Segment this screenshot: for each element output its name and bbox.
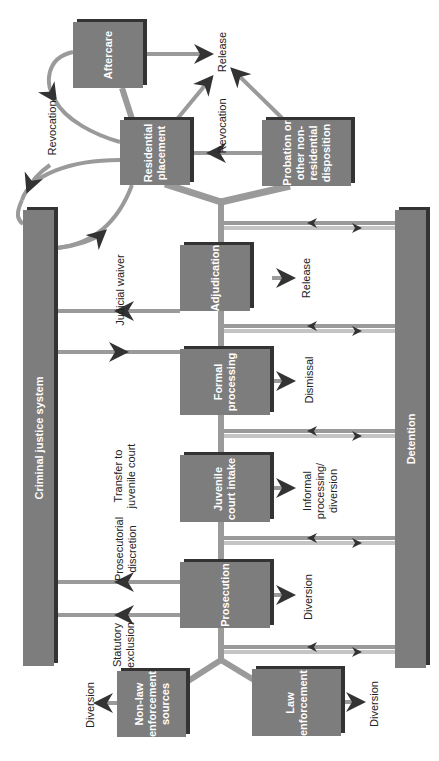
node-aftercare: Aftercare bbox=[73, 22, 143, 88]
label-diversion-non-law: Diversion bbox=[84, 682, 97, 728]
node-non-law-enforcement: Non-law enforcement sources bbox=[117, 671, 186, 737]
node-label: Probation or other non- residential disp… bbox=[281, 120, 333, 185]
label-diversion-law: Diversion bbox=[368, 681, 381, 727]
criminal-justice-system-bar: Criminal justice system bbox=[23, 210, 54, 666]
node-label: Law enforcement bbox=[284, 669, 310, 735]
node-juvenile-court-intake: Juvenile court intake bbox=[180, 455, 270, 522]
node-prosecution: Prosecution bbox=[180, 562, 270, 628]
label-release-top: Release bbox=[216, 32, 229, 72]
label-transfer-to-juvenile-court: Transfer to juvenile court bbox=[112, 444, 138, 509]
label-revocation-aftercare: Revocation bbox=[46, 100, 59, 155]
detention-label: Detention bbox=[405, 414, 417, 465]
node-adjudication: Adjudication bbox=[180, 245, 250, 311]
label-release-adjudication: Release bbox=[300, 258, 313, 298]
criminal-justice-system-label: Criminal justice system bbox=[33, 377, 45, 500]
node-label: Formal processing bbox=[212, 353, 238, 412]
node-label: Prosecution bbox=[219, 563, 232, 627]
node-formal-processing: Formal processing bbox=[180, 349, 270, 415]
label-judicial-waiver: Judicial waiver bbox=[114, 254, 127, 326]
label-dismissal: Dismissal bbox=[303, 356, 316, 403]
label-prosecutorial-discretion: Prosecutorial discretion bbox=[113, 517, 139, 581]
label-informal-processing: Informal processing/ diversion bbox=[301, 463, 340, 519]
detention-bar: Detention bbox=[395, 210, 426, 668]
node-probation: Probation or other non- residential disp… bbox=[262, 120, 351, 186]
node-label: Aftercare bbox=[102, 31, 115, 79]
node-law-enforcement: Law enforcement bbox=[252, 669, 341, 736]
node-label: Non-law enforcement sources bbox=[132, 671, 171, 737]
node-label: Residential placement bbox=[142, 123, 168, 182]
node-label: Juvenile court intake bbox=[212, 457, 238, 519]
label-statutory-exclusion: Statutory exclusion bbox=[111, 622, 137, 668]
label-revocation-probation: Revocation bbox=[216, 98, 229, 153]
node-label: Adjudication bbox=[209, 245, 222, 312]
flow-diagram: Criminal justice system Detention Afterc… bbox=[0, 0, 439, 761]
node-residential-placement: Residential placement bbox=[120, 120, 190, 185]
label-diversion-prosecution: Diversion bbox=[302, 574, 315, 620]
